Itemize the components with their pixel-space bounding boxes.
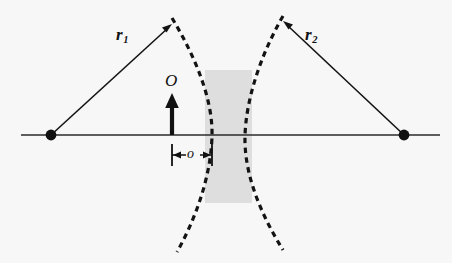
ray-r1-label: r1 <box>116 26 128 46</box>
lens-body-shading <box>205 70 252 203</box>
ray-r1-label-subscript: 1 <box>123 34 129 45</box>
ray-r1-label-base: r <box>116 25 123 44</box>
ray-r2-label-base: r <box>305 25 312 44</box>
ray-r2-group <box>283 21 404 135</box>
ray-r1-group <box>51 24 172 135</box>
ray-r2-label: r2 <box>305 26 317 46</box>
left-focus-point-dot <box>46 130 57 141</box>
ray-r2-label-subscript: 2 <box>312 34 318 45</box>
ray-diagram-canvas <box>0 0 452 263</box>
dimension-arrowhead-left <box>173 152 181 159</box>
optics-figure: r1 r2 O o <box>0 0 452 263</box>
right-focus-point-dot <box>399 130 410 141</box>
object-arrow <box>165 93 179 135</box>
object-height-label: O <box>165 72 177 89</box>
object-distance-label: o <box>187 147 194 161</box>
object-arrow-head <box>165 93 179 108</box>
ray-r1-line <box>51 28 168 135</box>
